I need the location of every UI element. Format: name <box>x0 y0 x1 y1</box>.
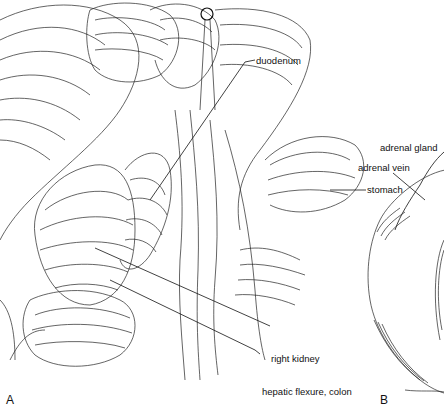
panel-letter-a: A <box>6 393 14 407</box>
panel-letter-b: B <box>380 393 388 407</box>
anatomical-illustration: duodenum stomach right kidney hepatic fl… <box>0 0 444 407</box>
line-drawing <box>0 0 444 407</box>
label-adrenal-vein: adrenal vein <box>358 162 410 173</box>
label-duodenum: duodenum <box>256 55 301 66</box>
label-right-kidney: right kidney <box>271 353 320 364</box>
label-stomach: stomach <box>367 184 403 195</box>
label-hepatic-flexure-colon: hepatic flexure, colon <box>262 386 352 397</box>
label-adrenal-gland: adrenal gland <box>380 142 438 153</box>
